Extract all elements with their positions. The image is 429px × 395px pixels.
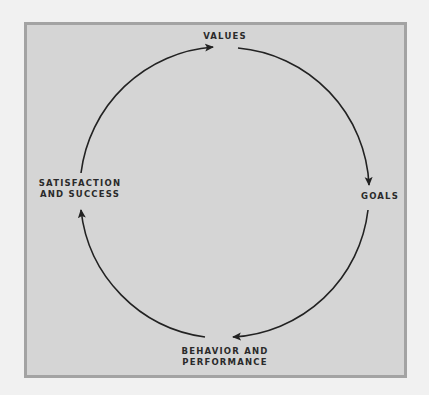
node-goals: GOALS xyxy=(340,191,420,202)
node-behavior: BEHAVIOR AND PERFORMANCE xyxy=(155,346,295,368)
node-values: VALUES xyxy=(175,31,275,42)
arrow-satisfaction-to-values xyxy=(81,47,213,173)
node-satisfaction: SATISFACTION AND SUCCESS xyxy=(5,178,155,200)
arrow-goals-to-behavior xyxy=(233,210,368,337)
node-satisfaction-line1: SATISFACTION xyxy=(5,178,155,189)
arrow-behavior-to-satisfaction xyxy=(81,210,205,337)
node-values-label: VALUES xyxy=(203,31,247,41)
node-behavior-line2: PERFORMANCE xyxy=(155,357,295,368)
node-satisfaction-line2: AND SUCCESS xyxy=(5,189,155,200)
node-behavior-line1: BEHAVIOR AND xyxy=(155,346,295,357)
arrow-values-to-goals xyxy=(238,48,369,185)
node-goals-label: GOALS xyxy=(361,191,399,201)
